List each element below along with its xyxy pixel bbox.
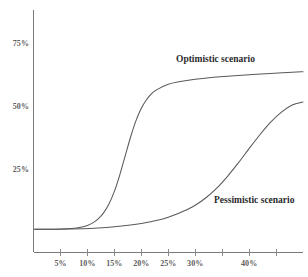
series-line-pessimistic [35,102,304,229]
x-axis-tick-label: 30% [187,260,203,268]
x-axis-tick-label: 25% [160,260,176,268]
y-axis-tick-label: 25% [4,166,29,174]
x-axis-tick-label: 10% [79,260,95,268]
x-axis-tick-label: 15% [106,260,122,268]
x-axis-tick-label: 40% [241,260,257,268]
series-line-optimistic [35,72,304,230]
x-axis-tick-label: 20% [133,260,149,268]
series-annotation-optimistic: Optimistic scenario [176,55,255,65]
scenario-forecast-chart: 75%50%25% 5%10%15%20%25%30%40% Optimisti… [0,0,308,277]
y-axis-tick-label: 50% [4,103,29,111]
series-paths-group [35,72,304,230]
y-axis-tick-label: 75% [4,40,29,48]
x-axis-tick-label: 5% [54,260,66,268]
series-annotation-pessimistic: Pessimistic scenario [214,196,294,206]
chart-plot-area [0,0,308,277]
